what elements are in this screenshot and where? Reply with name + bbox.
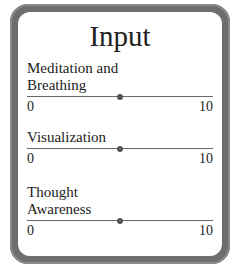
slider-range: 0 10 bbox=[27, 151, 213, 167]
slider-max-label: 10 bbox=[199, 151, 213, 167]
slider-label: Visualization bbox=[27, 129, 213, 146]
slider-range: 0 10 bbox=[27, 99, 213, 115]
slider-label-line2: Breathing bbox=[27, 77, 213, 94]
slider-min-label: 0 bbox=[27, 99, 34, 115]
slider-track[interactable] bbox=[27, 96, 213, 97]
slider-track[interactable] bbox=[27, 148, 213, 149]
slider-min-label: 0 bbox=[27, 223, 34, 239]
slider-thought-awareness: Thought Awareness 0 10 bbox=[27, 184, 213, 239]
slider-label-line1: Meditation and bbox=[27, 60, 213, 77]
panel-frame: Input Meditation and Breathing 0 10 Visu… bbox=[10, 4, 230, 264]
slider-knob[interactable] bbox=[117, 94, 123, 100]
input-panel: Input Meditation and Breathing 0 10 Visu… bbox=[18, 12, 222, 256]
slider-label-line1: Visualization bbox=[27, 129, 213, 146]
slider-label-line2: Awareness bbox=[27, 201, 213, 218]
panel-title: Input bbox=[18, 20, 222, 53]
slider-max-label: 10 bbox=[199, 99, 213, 115]
slider-label: Thought Awareness bbox=[27, 184, 213, 218]
slider-max-label: 10 bbox=[199, 223, 213, 239]
slider-label-line1: Thought bbox=[27, 184, 213, 201]
slider-range: 0 10 bbox=[27, 223, 213, 239]
slider-label: Meditation and Breathing bbox=[27, 60, 213, 94]
slider-min-label: 0 bbox=[27, 151, 34, 167]
slider-visualization: Visualization 0 10 bbox=[27, 129, 213, 167]
slider-knob[interactable] bbox=[117, 218, 123, 224]
slider-track[interactable] bbox=[27, 220, 213, 221]
slider-meditation-breathing: Meditation and Breathing 0 10 bbox=[27, 60, 213, 115]
slider-knob[interactable] bbox=[117, 146, 123, 152]
